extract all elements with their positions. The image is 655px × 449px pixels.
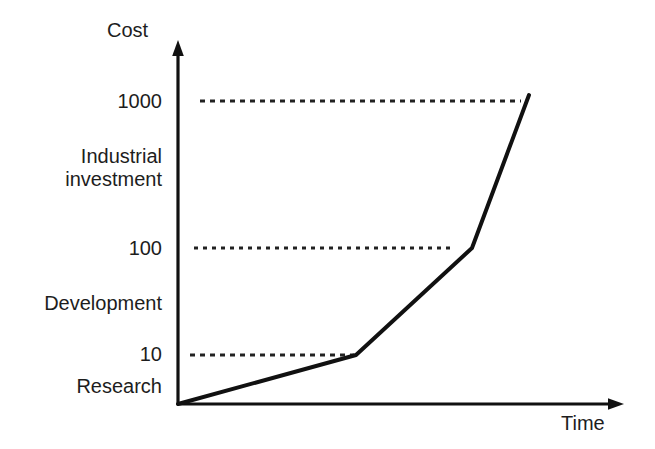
y-tick-label-10: 10 [140,343,162,366]
y-axis [172,40,184,405]
y-band-label-development: Development [44,292,162,315]
y-axis-title: Cost [107,19,148,42]
y-band-label-research: Research [76,375,162,398]
x-axis [177,398,624,410]
y-tick-label-100: 100 [129,237,162,260]
y-band-label-industrial-line1: Industrial [81,145,162,167]
y-band-label-industrial-investment: Industrial investment [65,145,162,191]
cost-vs-time-chart: Cost Time 1000 Industrial investment 100… [0,0,655,449]
y-tick-label-1000: 1000 [118,90,163,113]
y-band-label-industrial-line2: investment [65,168,162,191]
x-axis-title: Time [561,412,605,435]
